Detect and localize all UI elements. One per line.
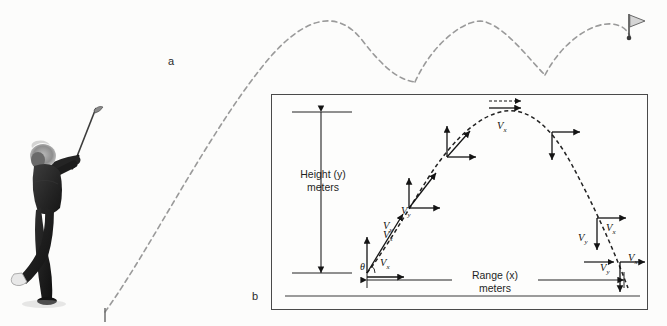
height-axis-label: Height (y) meters bbox=[287, 168, 359, 194]
landing-vectors bbox=[584, 262, 645, 292]
apex-vectors bbox=[489, 101, 521, 108]
theta-angle-label: θ bbox=[360, 261, 365, 272]
ascent-vy-label: Vy bbox=[401, 205, 411, 219]
inset-vector-diagram bbox=[0, 0, 667, 326]
early-descent-vectors bbox=[552, 132, 580, 160]
landing-vy-label: Vy bbox=[600, 262, 610, 276]
projectile-motion-figure: a b bbox=[0, 0, 667, 326]
ascent-vectors bbox=[409, 173, 440, 208]
height-axis-title: Height (y) bbox=[300, 168, 346, 180]
range-axis-units: meters bbox=[479, 282, 511, 294]
ascent-vx-label: Vx bbox=[383, 229, 393, 243]
range-axis-title: Range (x) bbox=[472, 269, 518, 281]
apex-vx-label: Vx bbox=[497, 120, 507, 134]
upper-ascent-vectors bbox=[447, 126, 476, 157]
height-axis-units: meters bbox=[307, 181, 339, 193]
descent-vx-label: Vx bbox=[606, 222, 616, 236]
launch-vx-label: Vx bbox=[380, 257, 390, 271]
range-axis-label: Range (x) meters bbox=[455, 269, 535, 295]
landing-vx-label: Vx bbox=[628, 252, 638, 266]
descent-vy-label: Vy bbox=[578, 232, 588, 246]
